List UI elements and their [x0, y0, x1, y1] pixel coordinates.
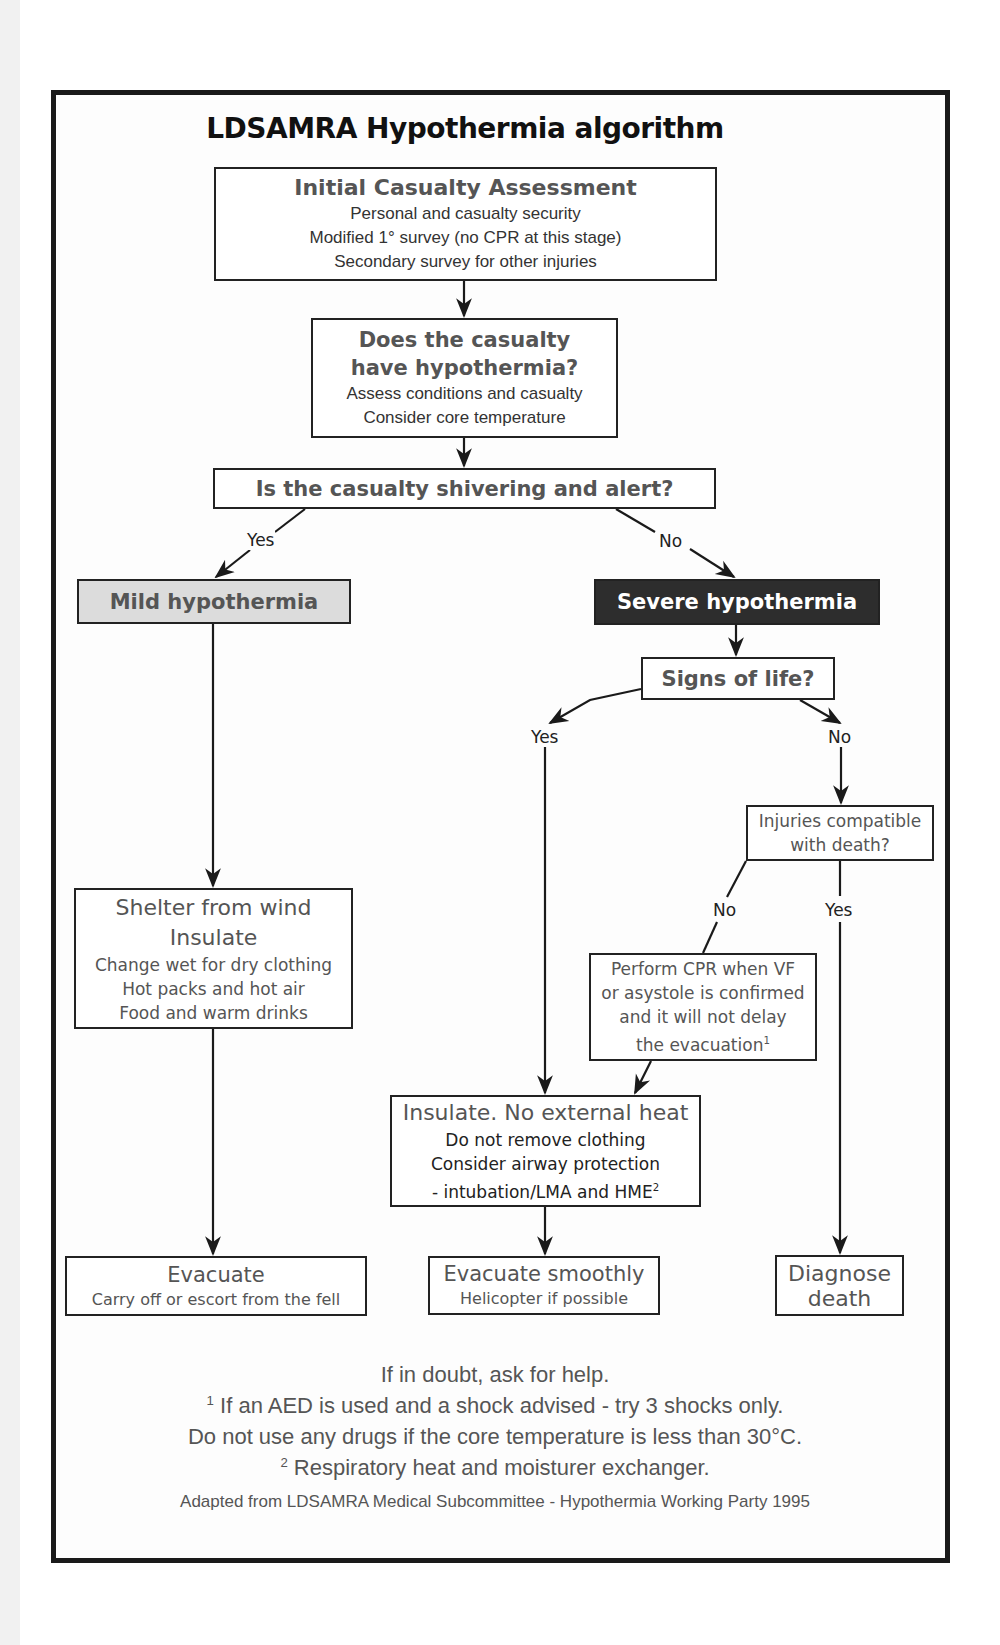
node-heading: Initial Casualty Assessment	[216, 175, 715, 200]
node-line: or asystole is confirmed	[591, 981, 815, 1005]
node-line: Hot packs and hot air	[76, 977, 351, 1001]
node-line-text: - intubation/LMA and HME	[432, 1182, 653, 1202]
node-line: Perform CPR when VF	[591, 957, 815, 981]
footnote-ref: 1	[763, 1035, 769, 1046]
node-line: Personal and casualty security	[216, 202, 715, 226]
edge-label-no: No	[712, 900, 737, 920]
node-evacuate: Evacuate Carry off or escort from the fe…	[65, 1256, 367, 1316]
node-line: Consider airway protection	[392, 1152, 699, 1176]
node-heading: have hypothermia?	[313, 354, 616, 382]
node-title-line: Insulate	[76, 923, 351, 953]
node-heading: Evacuate smoothly	[430, 1261, 658, 1288]
footer-note-drugs: Do not use any drugs if the core tempera…	[60, 1424, 930, 1450]
footer-credit: Adapted from LDSAMRA Medical Subcommitte…	[60, 1492, 930, 1512]
node-mild-hypothermia: Mild hypothermia	[77, 579, 351, 624]
edge-label-no: No	[658, 531, 683, 551]
footnote-ref: 2	[653, 1182, 659, 1193]
node-line: Do not remove clothing	[392, 1128, 699, 1152]
node-line: with death?	[748, 833, 932, 857]
footer-note-text: Respiratory heat and moisturer exchanger…	[288, 1455, 710, 1480]
node-line-text: the evacuation	[636, 1035, 763, 1055]
footnote-marker: 2	[280, 1455, 287, 1470]
node-heading: Insulate. No external heat	[392, 1098, 699, 1128]
footer-note-2: 2 Respiratory heat and moisturer exchang…	[60, 1455, 930, 1481]
node-heading: Signs of life?	[643, 667, 833, 691]
node-heading: Severe hypothermia	[596, 590, 878, 614]
node-evacuate-smoothly: Evacuate smoothly Helicopter if possible	[428, 1256, 660, 1315]
edge-label-no: No	[827, 727, 852, 747]
node-line: Modified 1° survey (no CPR at this stage…	[216, 226, 715, 250]
edge-label-yes: Yes	[246, 530, 275, 550]
node-line: Assess conditions and casualty	[313, 382, 616, 406]
node-injuries-compatible-with-death: Injuries compatible with death?	[746, 805, 934, 861]
node-signs-of-life: Signs of life?	[641, 657, 835, 700]
node-heading: Is the casualty shivering and alert?	[215, 477, 714, 501]
node-insulate-no-external-heat: Insulate. No external heat Do not remove…	[390, 1095, 701, 1207]
footnote-marker: 1	[207, 1393, 214, 1408]
edge-label-yes: Yes	[530, 727, 559, 747]
node-line: the evacuation1	[591, 1029, 815, 1057]
node-line: and it will not delay	[591, 1005, 815, 1029]
node-initial-assessment: Initial Casualty Assessment Personal and…	[214, 167, 717, 281]
footer-note-text: If an AED is used and a shock advised - …	[214, 1393, 783, 1418]
node-line: Secondary survey for other injuries	[216, 250, 715, 274]
node-severe-hypothermia: Severe hypothermia	[594, 579, 880, 625]
page-edge-strip	[0, 0, 20, 1645]
node-shelter-insulate: Shelter from wind Insulate Change wet fo…	[74, 888, 353, 1029]
footer-note-1: 1 If an AED is used and a shock advised …	[60, 1393, 930, 1419]
node-diagnose-death: Diagnose death	[775, 1255, 904, 1316]
node-line: death	[777, 1286, 902, 1311]
node-line: Diagnose	[777, 1261, 902, 1286]
node-line: Food and warm drinks	[76, 1001, 351, 1025]
node-heading: Does the casualty	[313, 326, 616, 354]
node-heading: Evacuate	[67, 1262, 365, 1289]
node-line: Carry off or escort from the fell	[67, 1289, 365, 1311]
node-heading: Mild hypothermia	[79, 590, 349, 614]
node-line: Consider core temperature	[313, 406, 616, 430]
edge-label-yes: Yes	[824, 900, 853, 920]
footer-advice: If in doubt, ask for help.	[60, 1362, 930, 1388]
node-line: Injuries compatible	[748, 809, 932, 833]
node-shivering-and-alert: Is the casualty shivering and alert?	[213, 468, 716, 509]
node-does-casualty-have-hypothermia: Does the casualty have hypothermia? Asse…	[311, 318, 618, 438]
node-perform-cpr: Perform CPR when VF or asystole is confi…	[589, 953, 817, 1061]
diagram-title: LDSAMRA Hypothermia algorithm	[150, 112, 780, 145]
node-line: - intubation/LMA and HME2	[392, 1176, 699, 1204]
node-title-line: Shelter from wind	[76, 893, 351, 923]
node-line: Change wet for dry clothing	[76, 953, 351, 977]
node-line: Helicopter if possible	[430, 1288, 658, 1310]
